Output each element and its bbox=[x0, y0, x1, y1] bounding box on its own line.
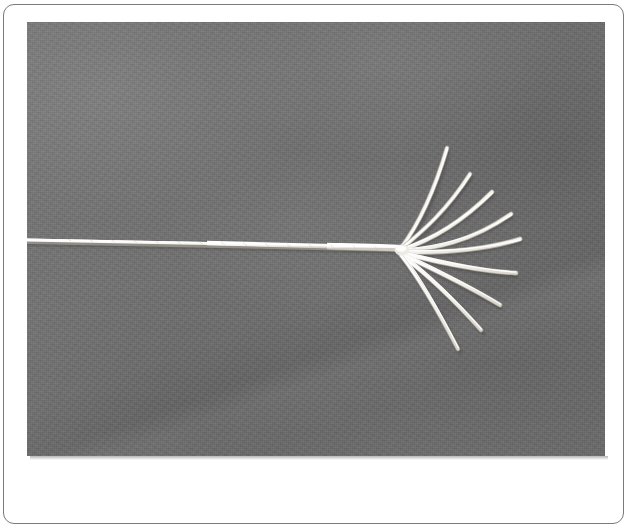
frayed-strand-fan bbox=[401, 148, 520, 349]
rope-shaft bbox=[27, 239, 403, 252]
photograph bbox=[27, 22, 605, 456]
fan-convergence-knot bbox=[395, 244, 410, 255]
rope-subject bbox=[27, 22, 605, 456]
photo-drop-shadow bbox=[30, 456, 608, 460]
